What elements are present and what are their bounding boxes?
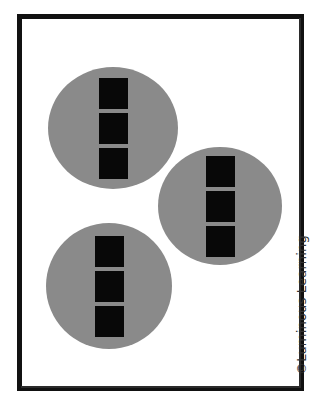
unit-square[interactable]: [95, 271, 124, 302]
unit-square[interactable]: [99, 113, 128, 144]
unit-square[interactable]: [206, 226, 235, 257]
unit-square[interactable]: [95, 306, 124, 337]
group-circle-1[interactable]: [48, 67, 178, 189]
worksheet-canvas: ©Luminous Learning: [0, 0, 323, 405]
copyright-watermark: ©Luminous Learning: [294, 225, 310, 375]
group-circle-2[interactable]: [158, 147, 282, 265]
groups-area: [22, 19, 299, 386]
unit-square[interactable]: [95, 236, 124, 267]
unit-square[interactable]: [99, 148, 128, 179]
unit-square[interactable]: [206, 156, 235, 187]
unit-square[interactable]: [99, 78, 128, 109]
group-circle-3[interactable]: [46, 223, 172, 349]
unit-square[interactable]: [206, 191, 235, 222]
